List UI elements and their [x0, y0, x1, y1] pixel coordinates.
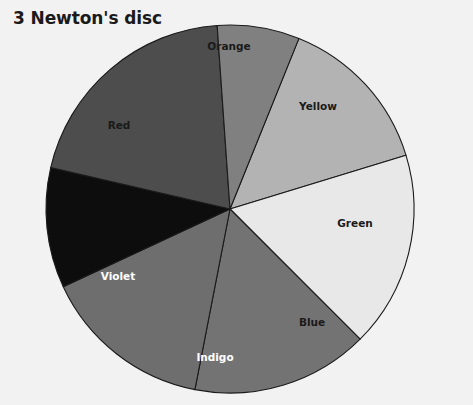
page-title: 3 Newton's disc [13, 8, 162, 28]
figure-canvas: 3 Newton's disc OrangeYellowGreenBlueInd… [0, 0, 473, 405]
pie-slice-label-blue: Blue [299, 316, 325, 328]
pie-slice-label-green: Green [337, 217, 373, 229]
pie-slices-group [46, 25, 414, 393]
pie-slice-label-red: Red [108, 119, 131, 131]
newtons-disc-pie-chart: OrangeYellowGreenBlueIndigoVioletRed [0, 0, 473, 405]
pie-slice-label-yellow: Yellow [298, 100, 337, 112]
pie-slice-label-indigo: Indigo [196, 351, 233, 363]
pie-slice-label-orange: Orange [207, 40, 250, 52]
pie-slice-label-violet: Violet [101, 270, 136, 282]
